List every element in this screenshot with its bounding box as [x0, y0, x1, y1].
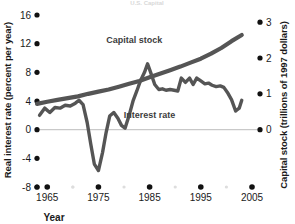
y-right-tick-label: 0: [266, 124, 272, 135]
x-minor-tick-dot: [174, 185, 177, 188]
x-tick-dot: [96, 184, 102, 190]
series-label-interest-rate: Interest rate: [124, 110, 176, 120]
y-right-tick-label: 1: [266, 88, 272, 99]
x-tick-dot: [44, 184, 50, 190]
series-line-capital-stock: [37, 35, 242, 104]
x-tick-label: 1975: [87, 192, 110, 203]
chart-figure: U.S. Capital Real interest rate (percent…: [0, 0, 295, 224]
y-right-tick-dot: [257, 20, 262, 25]
x-tick-label: 1995: [190, 192, 213, 203]
chart-canvas: U.S. Capital Real interest rate (percent…: [0, 0, 295, 224]
y-left-tick-label: -8: [22, 182, 31, 193]
left-axis-title: Real interest rate (percent per year): [2, 22, 13, 178]
right-axis-title: Capital stock (trillions of 1997 dollars…: [278, 21, 289, 188]
y-right-tick-dot: [257, 91, 262, 96]
x-tick-dot: [249, 184, 255, 190]
y-right-tick-label: 3: [266, 17, 272, 28]
chart-top-title: U.S. Capital: [130, 0, 164, 6]
y-left-tick-label: -4: [22, 153, 31, 164]
x-tick-label: 1965: [36, 192, 59, 203]
y-left-tick-label: 16: [20, 10, 32, 21]
y-right-tick-label: 2: [266, 53, 272, 64]
x-axis-ticks: 19651975198519952005: [34, 184, 263, 203]
x-minor-tick-dot: [225, 185, 228, 188]
series-group: [37, 35, 242, 170]
y-axis-left-ticks: -8-40481216: [20, 10, 40, 193]
y-axis-right-ticks: 0123: [257, 17, 272, 136]
x-tick-dot: [198, 184, 204, 190]
y-right-tick-dot: [257, 127, 262, 132]
y-left-tick-dot: [34, 12, 39, 17]
y-left-tick-label: 8: [25, 67, 31, 78]
x-tick-dot: [147, 184, 153, 190]
y-left-tick-dot: [34, 41, 39, 46]
y-left-tick-dot: [34, 70, 39, 75]
y-left-tick-label: 0: [25, 124, 31, 135]
y-right-tick-dot: [257, 55, 262, 60]
x-minor-tick-dot: [71, 185, 74, 188]
series-label-capital-stock: Capital stock: [106, 35, 163, 45]
x-axis-title: Year: [43, 212, 64, 223]
x-tick-label: 1985: [138, 192, 161, 203]
y-left-tick-dot: [34, 127, 39, 132]
y-left-tick-label: 12: [20, 38, 32, 49]
y-left-tick-label: 4: [25, 96, 31, 107]
x-minor-tick-dot: [122, 185, 125, 188]
y-left-tick-dot: [34, 156, 39, 161]
x-tick-label: 2005: [241, 192, 264, 203]
